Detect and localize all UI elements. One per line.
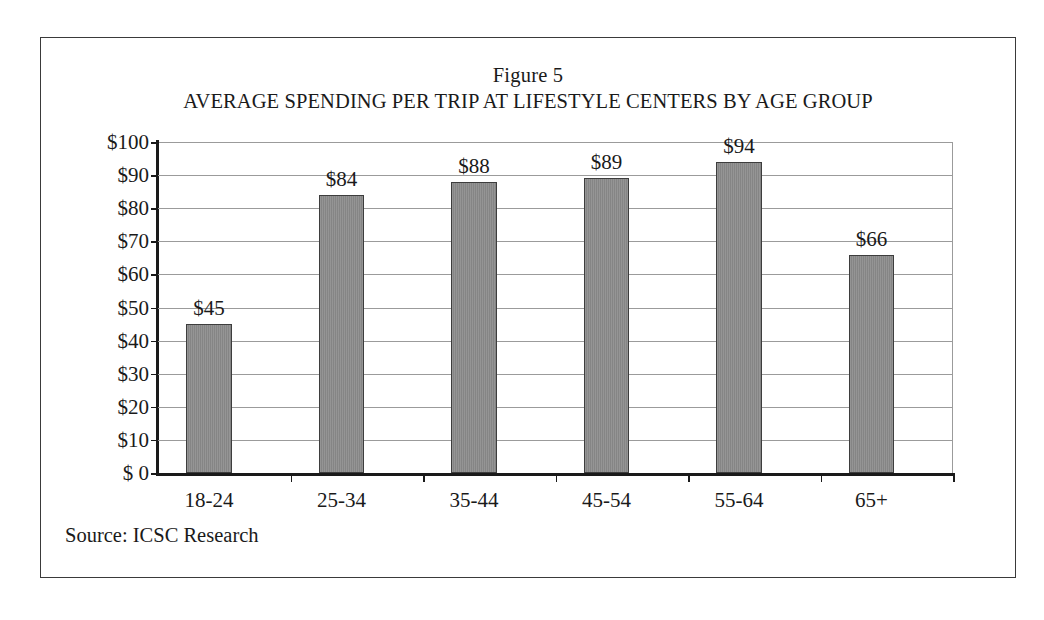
gridline (158, 274, 953, 275)
chart-title: AVERAGE SPENDING PER TRIP AT LIFESTYLE C… (41, 90, 1015, 113)
x-axis-tick-label: 18-24 (185, 488, 234, 513)
bar: $89 (584, 178, 630, 473)
y-axis-tick-mark (151, 374, 158, 376)
y-axis-tick-mark (151, 208, 158, 210)
gridline (158, 241, 953, 242)
bar-value-label: $94 (723, 134, 755, 159)
x-axis-tick-label: 45-54 (582, 488, 631, 513)
gridline (158, 374, 953, 375)
x-axis-tick-label: 55-64 (715, 488, 764, 513)
y-axis-tick-label: $90 (118, 163, 150, 188)
y-axis-tick-label: $20 (118, 394, 150, 419)
gridline (158, 208, 953, 209)
bar-value-label: $89 (591, 150, 623, 175)
source-note: Source: ICSC Research (65, 524, 259, 547)
y-axis-tick-mark (151, 241, 158, 243)
gridline (158, 175, 953, 176)
x-axis-tick-label: 35-44 (450, 488, 499, 513)
gridline (158, 440, 953, 441)
y-axis-tick-label: $100 (107, 130, 149, 155)
y-axis-tick-mark (151, 341, 158, 343)
y-axis-tick-label: $10 (118, 427, 150, 452)
figure-frame: Figure 5 AVERAGE SPENDING PER TRIP AT LI… (40, 37, 1016, 578)
y-axis-tick-label: $40 (118, 328, 150, 353)
y-axis-tick-mark (151, 473, 158, 475)
x-axis-tick-label: 25-34 (317, 488, 366, 513)
bar: $45 (186, 324, 232, 473)
bar-value-label: $88 (458, 154, 490, 179)
gridline (158, 308, 953, 309)
bar: $66 (849, 255, 895, 473)
figure-number: Figure 5 (41, 64, 1015, 87)
y-axis-tick-mark (151, 142, 158, 144)
x-axis-tick-mark (291, 473, 293, 482)
y-axis-tick-mark (151, 175, 158, 177)
x-axis-tick-mark (821, 473, 823, 482)
y-axis-tick-mark (151, 440, 158, 442)
y-axis-tick-mark (151, 274, 158, 276)
y-axis-tick-mark (151, 407, 158, 409)
x-axis-tick-mark (953, 473, 955, 482)
y-axis-tick-label: $30 (118, 361, 150, 386)
y-axis-tick-label: $70 (118, 229, 150, 254)
x-axis-tick-mark (688, 473, 690, 482)
gridline (158, 407, 953, 408)
bar: $84 (319, 195, 365, 473)
gridline (158, 341, 953, 342)
bar-value-label: $84 (326, 167, 358, 192)
bar-value-label: $66 (856, 227, 888, 252)
x-axis-tick-mark (556, 473, 558, 482)
title-block: Figure 5 AVERAGE SPENDING PER TRIP AT LI… (41, 64, 1015, 113)
x-axis-tick-mark (423, 473, 425, 482)
y-axis-tick-mark (151, 308, 158, 310)
y-axis-tick-label: $80 (118, 196, 150, 221)
bar: $94 (716, 162, 762, 473)
x-axis-tick-label: 65+ (855, 488, 888, 513)
y-axis-tick-label: $60 (118, 262, 150, 287)
plot-wrap: $ 0$10$20$30$40$50$60$70$80$90$100 $45$8… (158, 142, 953, 473)
bar-value-label: $45 (193, 296, 225, 321)
bar: $88 (451, 182, 497, 473)
y-axis-tick-label: $ 0 (123, 461, 149, 486)
y-axis-tick-label: $50 (118, 295, 150, 320)
